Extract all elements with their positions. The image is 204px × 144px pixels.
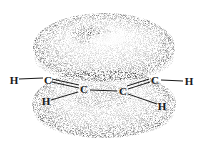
atom-h1: H bbox=[10, 75, 19, 86]
atom-h4: H bbox=[158, 101, 167, 112]
upper-cloud-hole bbox=[90, 33, 126, 45]
upper-pi-cloud bbox=[33, 13, 175, 82]
atom-h3: H bbox=[185, 76, 194, 87]
atom-c4: C bbox=[151, 75, 159, 86]
bond-h1-c1 bbox=[19, 78, 43, 79]
bond-c4-h3 bbox=[161, 80, 183, 81]
atom-h2: H bbox=[42, 96, 51, 107]
atom-c2: C bbox=[80, 84, 88, 95]
atom-c3: C bbox=[119, 86, 127, 97]
atom-c1: C bbox=[44, 75, 52, 86]
benzene-pi-cloud-diagram bbox=[0, 0, 204, 144]
